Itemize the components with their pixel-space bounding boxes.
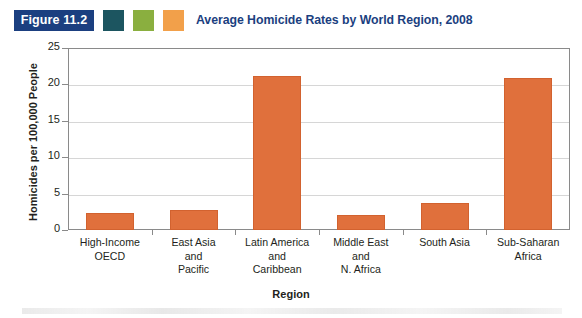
- x-axis-category-label: Sub-SaharanAfrica: [486, 236, 570, 263]
- y-tick-label: 25: [20, 40, 60, 52]
- x-axis-category-line: Middle East: [319, 236, 403, 250]
- figure-number-badge: Figure 11.2: [14, 10, 94, 31]
- bar: [86, 213, 134, 230]
- x-axis-category-label: East AsiaandPacific: [152, 236, 236, 277]
- y-axis-ticks: 0510152025: [0, 48, 68, 230]
- x-axis-category-line: Caribbean: [235, 263, 319, 277]
- y-tick-label: 20: [20, 76, 60, 88]
- plot-area: Homicides per 100,000 People 0510152025 …: [0, 40, 582, 318]
- x-axis-category-line: N. Africa: [319, 263, 403, 277]
- x-axis-labels: High-IncomeOECDEast AsiaandPacificLatin …: [68, 236, 570, 288]
- x-tick-mark: [152, 230, 153, 235]
- bar: [421, 203, 469, 230]
- x-axis-category-line: Pacific: [152, 263, 236, 277]
- x-axis-category-line: Africa: [486, 250, 570, 264]
- x-tick-mark: [235, 230, 236, 235]
- x-axis-category-line: Sub-Saharan: [486, 236, 570, 250]
- page-footer-text: [22, 308, 562, 314]
- x-tick-mark: [486, 230, 487, 235]
- x-axis-category-line: East Asia: [152, 236, 236, 250]
- y-tick-label: 0: [20, 222, 60, 234]
- x-axis-category-line: Latin America: [235, 236, 319, 250]
- x-axis-category-label: Latin AmericaandCaribbean: [235, 236, 319, 277]
- x-axis-category-line: and: [152, 250, 236, 264]
- chart-title: Average Homicide Rates by World Region, …: [196, 13, 473, 27]
- x-axis-category-line: and: [319, 250, 403, 264]
- x-axis-category-label: Middle EastandN. Africa: [319, 236, 403, 277]
- swatch-teal-icon: [103, 10, 124, 31]
- x-axis-title: Region: [0, 288, 582, 300]
- figure-container: Figure 11.2 Average Homicide Rates by Wo…: [0, 0, 582, 318]
- x-axis-category-label: High-IncomeOECD: [68, 236, 152, 263]
- bar: [253, 76, 301, 230]
- x-tick-mark: [403, 230, 404, 235]
- y-tick-label: 10: [20, 149, 60, 161]
- y-tick-label: 5: [20, 186, 60, 198]
- x-tick-mark: [319, 230, 320, 235]
- figure-header: Figure 11.2 Average Homicide Rates by Wo…: [0, 0, 582, 40]
- y-tick-label: 15: [20, 113, 60, 125]
- bar: [170, 210, 218, 230]
- bar: [504, 78, 552, 230]
- x-axis-category-line: OECD: [68, 250, 152, 264]
- x-axis-category-line: South Asia: [403, 236, 487, 250]
- x-axis-category-line: and: [235, 250, 319, 264]
- bars-group: [68, 48, 570, 230]
- x-axis-category-label: South Asia: [403, 236, 487, 250]
- x-axis-category-line: High-Income: [68, 236, 152, 250]
- swatch-green-icon: [133, 10, 154, 31]
- bar: [337, 215, 385, 230]
- swatch-orange-icon: [163, 10, 184, 31]
